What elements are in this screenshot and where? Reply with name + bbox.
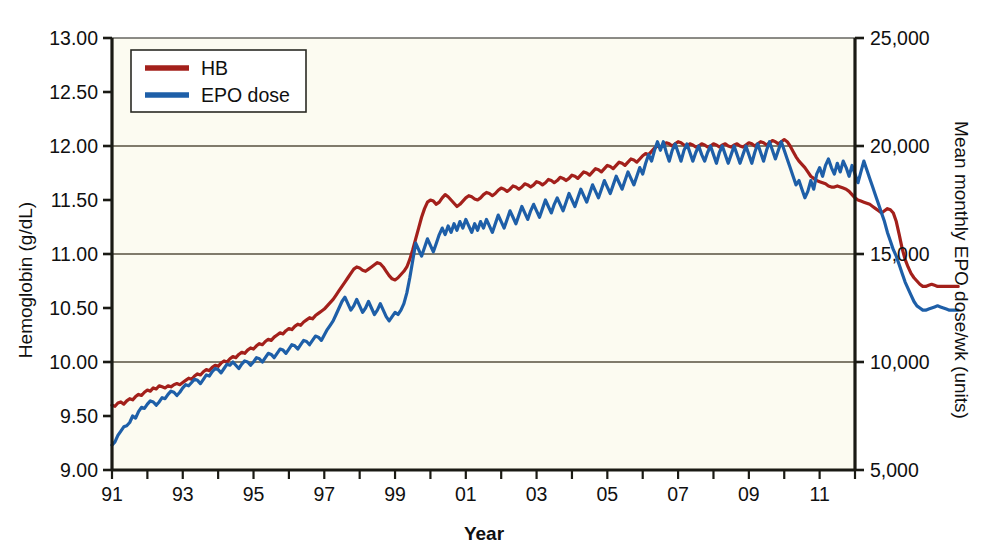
y-tick-label: 10.50 [49,297,98,319]
y-axis-title: Hemoglobin (g/dL) [15,202,36,358]
chart-figure: 9193959799010305070911 9.009.5010.0010.5… [0,0,988,547]
x-tick-label: 07 [667,483,689,505]
y-tick-label: 9.50 [60,405,98,427]
y2-axis-title: Mean monthly EPO dose/wk (units) [951,121,972,419]
y2-tick-label: 10,000 [870,351,930,373]
y-tick-label: 11.50 [51,189,99,211]
y-tick-label: 12.50 [49,81,98,103]
x-tick-label: 91 [101,483,123,505]
x-tick-label: 93 [172,483,194,505]
y2-tick-label: 25,000 [870,27,930,49]
y-tick-label: 9.00 [60,459,98,481]
y-tick-label: 10.00 [49,351,98,373]
chart-canvas: 9193959799010305070911 9.009.5010.0010.5… [0,0,988,547]
x-tick-label: 95 [243,483,265,505]
y-tick-label: 12.00 [49,135,98,157]
y2-tick-label: 20,000 [870,135,930,157]
x-tick-label: 99 [384,483,406,505]
y2-tick-label: 15,000 [870,243,930,265]
x-tick-label: 03 [526,483,548,505]
x-tick-label: 97 [313,483,335,505]
x-axis-title: Year [464,523,505,544]
x-tick-label: 09 [738,483,760,505]
legend: HBEPO dose [131,50,306,112]
y-tick-label: 11.00 [51,243,99,265]
legend-label-hb: HB [201,57,228,79]
y2-tick-label: 5,000 [870,459,919,481]
x-tick-label: 11 [809,483,829,505]
legend-label-epo-dose: EPO dose [201,84,290,106]
x-tick-label: 01 [455,483,477,505]
y-tick-label: 13.00 [49,27,98,49]
x-tick-label: 05 [596,483,618,505]
